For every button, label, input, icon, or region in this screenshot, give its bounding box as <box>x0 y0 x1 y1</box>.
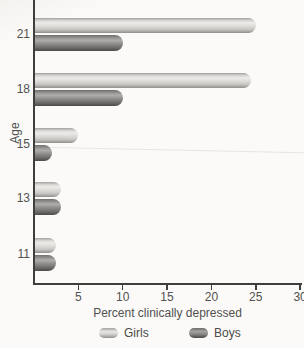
bar-boys-age-11 <box>34 255 56 271</box>
bar-boys-age-18 <box>34 90 123 106</box>
age-label-18: 18 <box>4 81 30 98</box>
scan-artifact-line <box>52 147 304 153</box>
bar-girls-age-13 <box>34 182 61 197</box>
x-tick-label-30: 30 <box>288 290 304 304</box>
age-label-11: 11 <box>4 246 30 263</box>
bar-girls-age-21 <box>34 18 256 33</box>
legend-item-girls: Girls <box>99 325 149 341</box>
bar-boys-age-21 <box>34 35 123 51</box>
y-axis-line <box>33 0 35 285</box>
legend-label-boys: Boys <box>214 326 241 340</box>
x-tick-label-10: 10 <box>111 290 135 304</box>
x-axis-title: Percent clinically depressed <box>33 306 302 320</box>
x-tick-label-25: 25 <box>244 290 268 304</box>
x-tick-label-20: 20 <box>199 290 223 304</box>
age-label-13: 13 <box>4 190 30 207</box>
bar-girls-age-11 <box>34 238 56 253</box>
girls-swatch-icon <box>99 328 118 338</box>
legend: Girls Boys <box>0 325 304 341</box>
bar-girls-age-15 <box>34 128 78 143</box>
age-label-21: 21 <box>4 26 30 43</box>
bar-boys-age-13 <box>34 199 61 215</box>
legend-label-girls: Girls <box>124 326 149 340</box>
legend-item-boys: Boys <box>189 325 241 341</box>
age-label-15: 15 <box>4 136 30 153</box>
bar-girls-age-18 <box>34 73 251 88</box>
x-tick-label-15: 15 <box>155 290 179 304</box>
bar-chart: Age 211815131151015202530 Percent clinic… <box>0 0 304 348</box>
x-tick-label-5: 5 <box>66 290 90 304</box>
boys-swatch-icon <box>189 328 208 338</box>
bar-boys-age-15 <box>34 145 52 161</box>
